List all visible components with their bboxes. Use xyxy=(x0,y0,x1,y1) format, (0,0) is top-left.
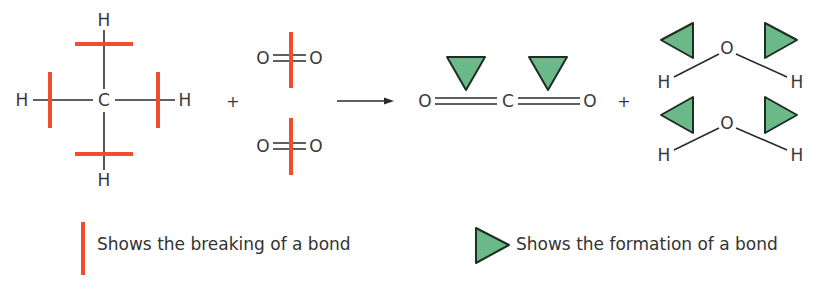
atom-h-left: H xyxy=(658,72,671,92)
legend: Shows the breaking of a bond Shows the f… xyxy=(83,222,778,275)
plus-sign: + xyxy=(617,92,630,111)
form-bond-legend-label: Shows the formation of a bond xyxy=(516,234,778,254)
reaction-arrow xyxy=(337,98,394,105)
o-h-bond-right xyxy=(736,54,787,77)
form-bond-triangle-icon xyxy=(447,57,485,90)
atom-o-left: O xyxy=(256,48,269,68)
atom-c: C xyxy=(98,90,110,110)
atom-h-right: H xyxy=(179,90,192,110)
bond-energy-diagram: H H H H C + O O O O O C O xyxy=(0,0,819,290)
o-h-bond-right xyxy=(736,128,787,150)
methane-molecule: H H H H C xyxy=(16,10,192,190)
atom-h-right: H xyxy=(791,72,804,92)
atom-o: O xyxy=(720,38,733,58)
oxygen-molecule-2: O O xyxy=(256,118,322,175)
water-molecule-1: O H H xyxy=(658,23,804,92)
atom-o: O xyxy=(720,113,733,133)
reaction-canvas: H H H H C + O O O O O C O xyxy=(0,0,819,290)
atom-h-right: H xyxy=(791,145,804,165)
form-bond-triangle-icon xyxy=(529,57,567,90)
break-bond-legend-label: Shows the breaking of a bond xyxy=(97,234,351,254)
atom-h-bottom: H xyxy=(98,170,111,190)
o-h-bond-left xyxy=(674,128,719,150)
atom-o-right: O xyxy=(309,136,322,156)
form-bond-triangle-icon xyxy=(765,23,797,58)
o-h-bond-left xyxy=(674,54,719,77)
oxygen-molecule-1: O O xyxy=(256,32,322,88)
atom-h-left: H xyxy=(16,90,29,110)
atom-h-top: H xyxy=(98,10,111,30)
form-bond-legend-icon xyxy=(476,228,509,263)
atom-h-left: H xyxy=(658,145,671,165)
atom-c: C xyxy=(502,91,514,111)
plus-sign: + xyxy=(226,92,239,111)
water-molecule-2: O H H xyxy=(658,97,804,165)
atom-o-left: O xyxy=(256,136,269,156)
atom-o-left: O xyxy=(418,91,431,111)
form-bond-triangle-icon xyxy=(661,23,693,58)
form-bond-triangle-icon xyxy=(661,97,693,133)
atom-o-right: O xyxy=(309,48,322,68)
form-bond-triangle-icon xyxy=(765,97,797,133)
arrow-head-icon xyxy=(384,98,394,105)
carbon-dioxide-molecule: O C O xyxy=(418,57,596,111)
atom-o-right: O xyxy=(583,91,596,111)
